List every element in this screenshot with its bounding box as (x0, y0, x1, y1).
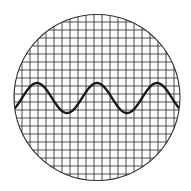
oscilloscope-figure (0, 0, 191, 191)
screen-background (14, 15, 180, 181)
